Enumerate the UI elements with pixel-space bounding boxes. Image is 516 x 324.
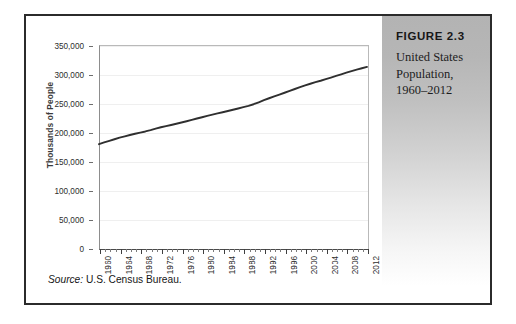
x-tick-label: 1980 [207, 256, 216, 274]
y-tick-mark [89, 75, 93, 76]
x-tick-label: 1988 [248, 256, 257, 274]
source-divider [26, 264, 382, 265]
y-axis-ticks: 350,000300,000250,000200,000150,000100,0… [26, 45, 93, 249]
y-tick-mark [89, 133, 93, 134]
caption-line: Population, [396, 66, 482, 83]
y-tick-mark [89, 46, 93, 47]
x-tick-label: 2004 [331, 256, 340, 274]
y-tick-mark [89, 191, 93, 192]
x-tick-label: 1996 [290, 256, 299, 274]
y-tick-label: 300,000 [54, 71, 84, 80]
y-tick-label: 150,000 [54, 158, 84, 167]
x-tick-label: 1976 [187, 256, 196, 274]
y-tick-label: 50,000 [59, 216, 84, 225]
caption-line: United States [396, 49, 482, 66]
x-tick-label: 1960 [104, 256, 113, 274]
y-tick-label: 350,000 [54, 42, 84, 51]
y-tick-label: 250,000 [54, 100, 84, 109]
figure-container: Thousands of People 350,000300,000250,00… [0, 0, 516, 324]
source-note: Source: U.S. Census Bureau. [48, 274, 182, 285]
caption-line: 1960–2012 [396, 82, 482, 99]
x-tick-label: 2008 [351, 256, 360, 274]
caption-panel: FIGURE 2.3 United StatesPopulation,1960–… [382, 16, 490, 303]
x-tick-label: 1968 [145, 256, 154, 274]
y-tick-label: 200,000 [54, 129, 84, 138]
x-tick-label: 2012 [372, 256, 381, 274]
figure-caption: United StatesPopulation,1960–2012 [396, 49, 482, 99]
x-tick-label: 1964 [125, 256, 134, 274]
y-tick-mark [89, 104, 93, 105]
y-tick-mark [89, 220, 93, 221]
figure-bordered-box: Thousands of People 350,000300,000250,00… [24, 14, 492, 305]
figure-number: FIGURE 2.3 [396, 30, 482, 42]
y-tick-label: 100,000 [54, 187, 84, 196]
chart-region: Thousands of People 350,000300,000250,00… [26, 16, 382, 303]
x-tick-label: 1972 [166, 256, 175, 274]
population-line-series [99, 45, 369, 250]
y-tick-mark [89, 249, 93, 250]
y-tick-label: 0 [79, 245, 84, 254]
x-tick-label: 1992 [269, 256, 278, 274]
source-label: Source: [48, 274, 83, 285]
y-tick-mark [89, 162, 93, 163]
x-tick-label: 2000 [310, 256, 319, 274]
x-tick-label: 1984 [228, 256, 237, 274]
caption-inner: FIGURE 2.3 United StatesPopulation,1960–… [396, 30, 482, 99]
source-text: U.S. Census Bureau. [86, 274, 182, 285]
